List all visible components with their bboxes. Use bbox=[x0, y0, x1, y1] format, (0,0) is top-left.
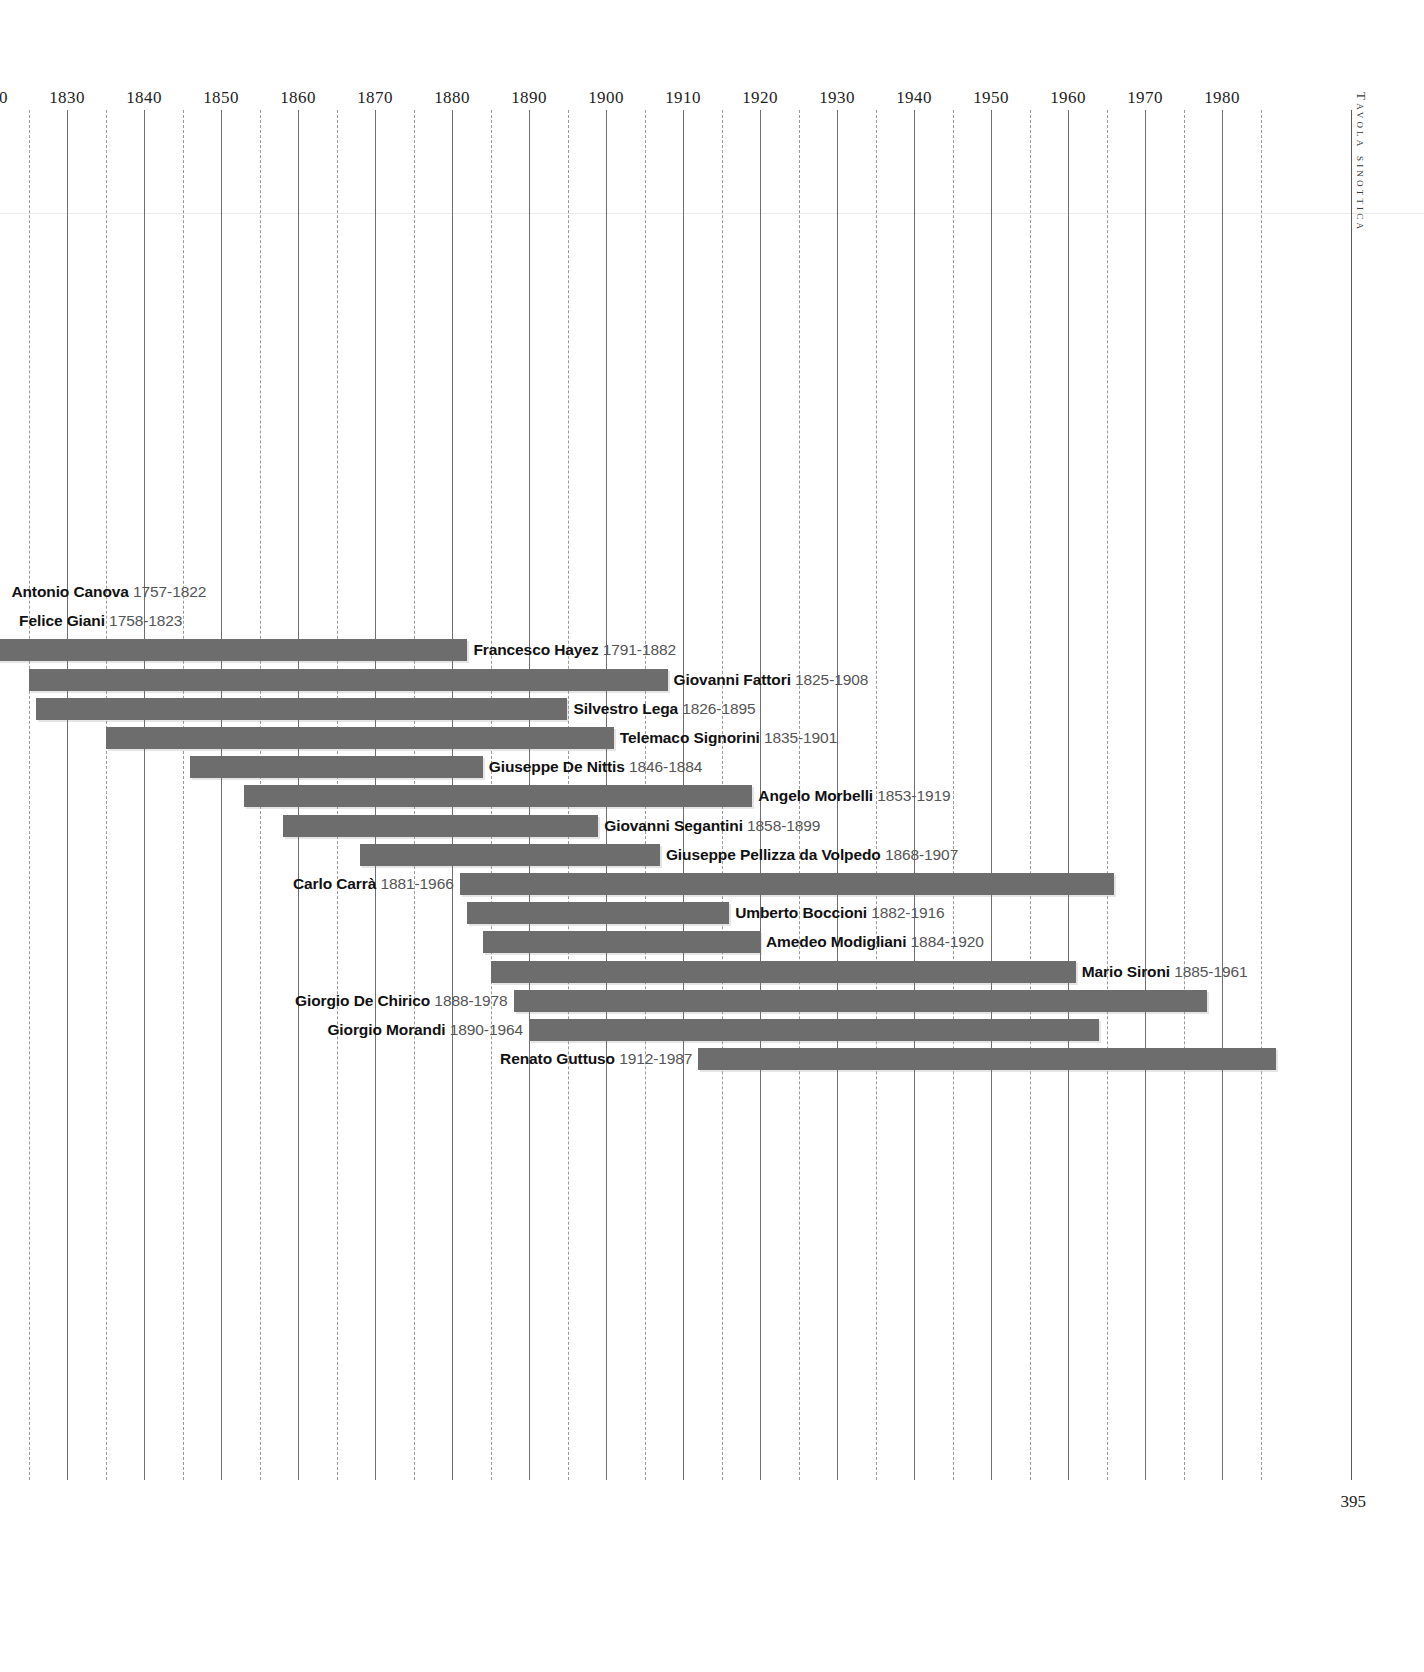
bar-label: Felice Giani 1758-1823 bbox=[19, 608, 182, 634]
artist-years: 1890-1964 bbox=[446, 1021, 523, 1038]
bar-label: Telemaco Signorini 1835-1901 bbox=[620, 725, 837, 751]
artist-name: Umberto Boccioni bbox=[735, 904, 867, 921]
artist-years: 1868-1907 bbox=[881, 846, 958, 863]
artist-name: Mario Sironi bbox=[1082, 963, 1170, 980]
page-number: 395 bbox=[1341, 1492, 1367, 1512]
lifespan-bar[interactable] bbox=[491, 961, 1076, 983]
timeline-row[interactable]: Renato Guttuso 1912-1987 bbox=[0, 1045, 1424, 1074]
timeline-row[interactable]: Giorgio De Chirico 1888-1978 bbox=[0, 987, 1424, 1016]
artist-years: 1825-1908 bbox=[791, 671, 868, 688]
artist-years: 1846-1884 bbox=[625, 758, 702, 775]
artist-years: 1826-1895 bbox=[678, 700, 755, 717]
timeline-row[interactable]: Angelo Morbelli 1853-1919 bbox=[0, 782, 1424, 811]
artist-years: 1858-1899 bbox=[743, 817, 820, 834]
artist-name: Carlo Carrà bbox=[293, 875, 376, 892]
artist-name: Felice Giani bbox=[19, 612, 105, 629]
timeline-row[interactable]: Carlo Carrà 1881-1966 bbox=[0, 870, 1424, 899]
artist-years: 1853-1919 bbox=[873, 787, 950, 804]
timeline-row[interactable]: Giovanni Fattori 1825-1908 bbox=[0, 666, 1424, 695]
timeline-row[interactable]: Giovanni Segantini 1858-1899 bbox=[0, 812, 1424, 841]
lifespan-bar[interactable] bbox=[483, 931, 760, 953]
bar-label: Giorgio Morandi 1890-1964 bbox=[327, 1017, 523, 1043]
artist-years: 1885-1961 bbox=[1170, 963, 1247, 980]
timeline-row[interactable]: Felice Giani 1758-1823 bbox=[0, 607, 1424, 636]
artist-name: Renato Guttuso bbox=[500, 1050, 615, 1067]
bar-label: Angelo Morbelli 1853-1919 bbox=[758, 783, 950, 809]
timeline-page: 1830184018501860187018801890190019101920… bbox=[0, 0, 1424, 1672]
lifespan-bar[interactable] bbox=[0, 639, 467, 661]
bar-label: Antonio Canova 1757-1822 bbox=[11, 579, 206, 605]
bar-label: Giovanni Fattori 1825-1908 bbox=[674, 667, 869, 693]
timeline-row[interactable]: Giuseppe De Nittis 1846-1884 bbox=[0, 753, 1424, 782]
timeline-row[interactable]: Telemaco Signorini 1835-1901 bbox=[0, 724, 1424, 753]
artist-name: Giuseppe Pellizza da Volpedo bbox=[666, 846, 881, 863]
lifespan-bar[interactable] bbox=[244, 785, 752, 807]
lifespan-bar[interactable] bbox=[36, 698, 567, 720]
lifespan-bar[interactable] bbox=[190, 756, 483, 778]
lifespan-bar[interactable] bbox=[29, 669, 668, 691]
artist-name: Giovanni Segantini bbox=[604, 817, 743, 834]
bar-label: Mario Sironi 1885-1961 bbox=[1082, 959, 1248, 985]
timeline-row[interactable]: Umberto Boccioni 1882-1916 bbox=[0, 899, 1424, 928]
artist-years: 1791-1882 bbox=[599, 641, 676, 658]
timeline-row[interactable]: Mario Sironi 1885-1961 bbox=[0, 958, 1424, 987]
artist-name: Francesco Hayez bbox=[473, 641, 598, 658]
bar-label: Giuseppe De Nittis 1846-1884 bbox=[489, 754, 702, 780]
bar-label: Carlo Carrà 1881-1966 bbox=[293, 871, 454, 897]
timeline-row[interactable]: Silvestro Lega 1826-1895 bbox=[0, 695, 1424, 724]
lifespan-bar[interactable] bbox=[529, 1019, 1099, 1041]
artist-bar-rows: Antonio Canova 1757-1822Felice Giani 175… bbox=[0, 0, 1424, 1672]
artist-years: 1884-1920 bbox=[906, 933, 983, 950]
artist-name: Giovanni Fattori bbox=[674, 671, 791, 688]
timeline-row[interactable]: Giorgio Morandi 1890-1964 bbox=[0, 1016, 1424, 1045]
lifespan-bar[interactable] bbox=[360, 844, 660, 866]
bar-label: Giorgio De Chirico 1888-1978 bbox=[295, 988, 508, 1014]
timeline-row[interactable]: Antonio Canova 1757-1822 bbox=[0, 578, 1424, 607]
lifespan-bar[interactable] bbox=[467, 902, 729, 924]
artist-years: 1888-1978 bbox=[430, 992, 507, 1009]
timeline-row[interactable]: Amedeo Modigliani 1884-1920 bbox=[0, 928, 1424, 957]
artist-name: Giorgio De Chirico bbox=[295, 992, 430, 1009]
lifespan-bar[interactable] bbox=[460, 873, 1115, 895]
artist-name: Giuseppe De Nittis bbox=[489, 758, 625, 775]
artist-name: Giorgio Morandi bbox=[327, 1021, 445, 1038]
artist-years: 1881-1966 bbox=[376, 875, 453, 892]
artist-years: 1882-1916 bbox=[867, 904, 944, 921]
bar-label: Giuseppe Pellizza da Volpedo 1868-1907 bbox=[666, 842, 958, 868]
timeline-row[interactable]: Francesco Hayez 1791-1882 bbox=[0, 636, 1424, 665]
lifespan-bar[interactable] bbox=[514, 990, 1207, 1012]
bar-label: Francesco Hayez 1791-1882 bbox=[473, 637, 676, 663]
artist-name: Telemaco Signorini bbox=[620, 729, 760, 746]
artist-name: Antonio Canova bbox=[11, 583, 128, 600]
bar-label: Giovanni Segantini 1858-1899 bbox=[604, 813, 820, 839]
artist-years: 1758-1823 bbox=[105, 612, 182, 629]
artist-years: 1912-1987 bbox=[615, 1050, 692, 1067]
lifespan-bar[interactable] bbox=[106, 727, 614, 749]
bar-label: Umberto Boccioni 1882-1916 bbox=[735, 900, 944, 926]
bar-label: Amedeo Modigliani 1884-1920 bbox=[766, 929, 984, 955]
lifespan-bar[interactable] bbox=[698, 1048, 1276, 1070]
lifespan-bar[interactable] bbox=[283, 815, 599, 837]
bar-label: Renato Guttuso 1912-1987 bbox=[500, 1046, 692, 1072]
bar-label: Silvestro Lega 1826-1895 bbox=[574, 696, 756, 722]
artist-name: Amedeo Modigliani bbox=[766, 933, 906, 950]
timeline-row[interactable]: Giuseppe Pellizza da Volpedo 1868-1907 bbox=[0, 841, 1424, 870]
artist-name: Angelo Morbelli bbox=[758, 787, 873, 804]
artist-years: 1757-1822 bbox=[129, 583, 206, 600]
artist-name: Silvestro Lega bbox=[574, 700, 679, 717]
artist-years: 1835-1901 bbox=[760, 729, 837, 746]
